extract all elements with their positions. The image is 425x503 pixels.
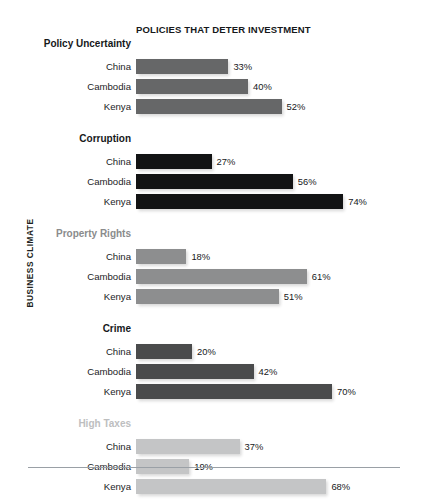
bar — [136, 479, 326, 494]
bar-track: 56% — [136, 174, 425, 189]
bar-value-label: 42% — [259, 366, 278, 377]
bar-group: High TaxesChina37%Cambodia19%Kenya68% — [0, 416, 425, 503]
bar-row-label: China — [0, 251, 131, 262]
bar-track: 37% — [136, 439, 425, 454]
bar-row: Cambodia56% — [0, 173, 425, 193]
bar-group: Policy UncertaintyChina33%Cambodia40%Ken… — [0, 36, 425, 131]
bar-track: 61% — [136, 269, 425, 284]
bar-row: Kenya52% — [0, 98, 425, 118]
chart-title: POLICIES THAT DETER INVESTMENT — [136, 24, 311, 35]
bar-value-label: 56% — [298, 176, 317, 187]
bar-row: Kenya51% — [0, 288, 425, 308]
bar-group: CorruptionChina27%Cambodia56%Kenya74% — [0, 131, 425, 226]
bar — [136, 249, 186, 264]
bar-track: 70% — [136, 384, 425, 399]
bar-value-label: 70% — [337, 386, 356, 397]
bar — [136, 59, 228, 74]
bar-track: 18% — [136, 249, 425, 264]
bar — [136, 99, 282, 114]
bar-value-label: 40% — [253, 81, 272, 92]
bar-row: China27% — [0, 153, 425, 173]
bar-row-label: Kenya — [0, 386, 131, 397]
bar-row-label: Kenya — [0, 291, 131, 302]
bar-row-label: China — [0, 441, 131, 452]
bar-track: 20% — [136, 344, 425, 359]
bar — [136, 364, 254, 379]
bar — [136, 154, 212, 169]
bar-group: CrimeChina20%Cambodia42%Kenya70% — [0, 321, 425, 416]
bar-value-label: 27% — [217, 156, 236, 167]
bar-row: Cambodia19% — [0, 458, 425, 478]
bar-row-label: China — [0, 156, 131, 167]
bar-group: Property RightsChina18%Cambodia61%Kenya5… — [0, 226, 425, 321]
bar-row: Cambodia61% — [0, 268, 425, 288]
bar-row: Kenya68% — [0, 478, 425, 498]
bar-group-label: Corruption — [0, 133, 131, 144]
bar-track: 33% — [136, 59, 425, 74]
plot-area: Policy UncertaintyChina33%Cambodia40%Ken… — [0, 36, 425, 503]
bar-value-label: 20% — [197, 346, 216, 357]
bar-row: China37% — [0, 438, 425, 458]
bar-value-label: 52% — [287, 101, 306, 112]
bar-row-label: Kenya — [0, 196, 131, 207]
bar-track: 68% — [136, 479, 425, 494]
bar-row-label: Cambodia — [0, 81, 131, 92]
bar — [136, 79, 248, 94]
bar-track: 42% — [136, 364, 425, 379]
bar — [136, 289, 279, 304]
bar — [136, 344, 192, 359]
bar-group-label: Policy Uncertainty — [0, 38, 131, 49]
bar-track: 51% — [136, 289, 425, 304]
bar-row: Cambodia42% — [0, 363, 425, 383]
bar-row-label: Kenya — [0, 481, 131, 492]
bar-row: Kenya70% — [0, 383, 425, 403]
bar-row: Kenya74% — [0, 193, 425, 213]
bottom-divider — [28, 467, 400, 468]
bar-row: Cambodia40% — [0, 78, 425, 98]
bar-row-label: Kenya — [0, 101, 131, 112]
bar — [136, 174, 293, 189]
bar-value-label: 33% — [233, 61, 252, 72]
bar-value-label: 18% — [191, 251, 210, 262]
bar — [136, 194, 343, 209]
bar-value-label: 61% — [312, 271, 331, 282]
bar-track: 74% — [136, 194, 425, 209]
bar-row-label: Cambodia — [0, 176, 131, 187]
bar — [136, 439, 240, 454]
bar-track: 52% — [136, 99, 425, 114]
bar-row-label: Cambodia — [0, 271, 131, 282]
bar-group-label: High Taxes — [0, 418, 131, 429]
bar — [136, 269, 307, 284]
bar-value-label: 68% — [331, 481, 350, 492]
bar-row-label: China — [0, 61, 131, 72]
bar-track: 27% — [136, 154, 425, 169]
bar-row-label: Cambodia — [0, 366, 131, 377]
bar-value-label: 51% — [284, 291, 303, 302]
bar-row: China33% — [0, 58, 425, 78]
bar — [136, 384, 332, 399]
bar-group-label: Crime — [0, 323, 131, 334]
bar-row: China18% — [0, 248, 425, 268]
bar-row-label: China — [0, 346, 131, 357]
bar-group-label: Property Rights — [0, 228, 131, 239]
bar-value-label: 37% — [245, 441, 264, 452]
bar-value-label: 74% — [348, 196, 367, 207]
bar-row: China20% — [0, 343, 425, 363]
bar-track: 40% — [136, 79, 425, 94]
